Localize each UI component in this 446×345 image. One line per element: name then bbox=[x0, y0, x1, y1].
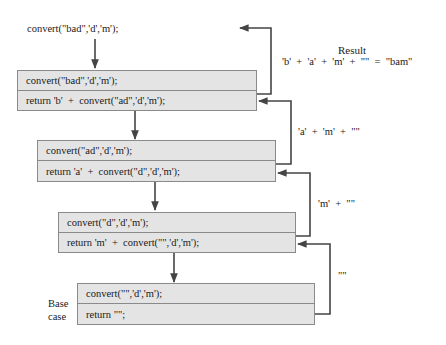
base-case-label-line1: Base bbox=[48, 298, 68, 310]
return-label-1: 'a' + 'm' + "" bbox=[298, 126, 360, 138]
frame-return: return 'm' + convert("",'d','m'); bbox=[59, 233, 295, 253]
result-label: Result bbox=[338, 44, 366, 56]
frame-call: convert("bad",'d','m'); bbox=[18, 71, 256, 91]
frame-return: return 'a' + convert("d",'d','m'); bbox=[38, 161, 275, 181]
stack-frame-1: convert("ad",'d','m'); return 'a' + conv… bbox=[37, 140, 276, 182]
frame-call: convert("",'d','m'); bbox=[78, 284, 314, 304]
return-label-3: "" bbox=[338, 270, 347, 282]
stack-frame-0: convert("bad",'d','m'); return 'b' + con… bbox=[17, 70, 257, 111]
frame-return: return 'b' + convert("ad",'d','m'); bbox=[18, 91, 256, 111]
frame-return: return ""; bbox=[78, 304, 314, 324]
stack-frame-2: convert("d",'d','m'); return 'm' + conve… bbox=[58, 212, 296, 253]
initial-call: convert("bad",'d','m'); bbox=[27, 23, 118, 35]
frame-call: convert("d",'d','m'); bbox=[59, 213, 295, 233]
return-label-2: 'm' + "" bbox=[318, 198, 355, 210]
base-case-label-line2: case bbox=[48, 311, 66, 323]
frame-call: convert("ad",'d','m'); bbox=[38, 141, 275, 161]
result-expression: 'b' + 'a' + 'm' + "" = "bam" bbox=[282, 56, 412, 68]
stack-frame-base: convert("",'d','m'); return ""; bbox=[77, 283, 315, 325]
